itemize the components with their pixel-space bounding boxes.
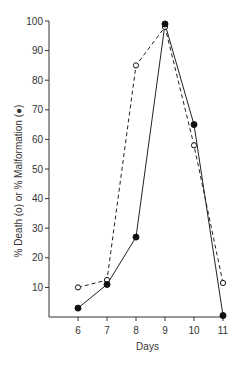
x-tick-label: 6 xyxy=(75,325,81,336)
death-point xyxy=(220,280,225,285)
y-tick-label: 60 xyxy=(32,134,44,145)
y-tick-label: 30 xyxy=(32,223,44,234)
malformation-point xyxy=(191,122,197,128)
y-tick-label: 70 xyxy=(32,104,44,115)
x-tick-label: 10 xyxy=(188,325,200,336)
death-line xyxy=(78,27,223,287)
x-tick-label: 8 xyxy=(133,325,139,336)
chart: 10203040506070809010067891011Days% Death… xyxy=(0,0,241,365)
x-tick-label: 9 xyxy=(162,325,168,336)
x-axis-title: Days xyxy=(136,341,159,352)
malformation-point xyxy=(133,234,139,240)
y-tick-label: 10 xyxy=(32,282,44,293)
malformation-point xyxy=(75,305,81,311)
malformation-point xyxy=(162,21,168,27)
x-tick-label: 11 xyxy=(218,325,229,336)
y-tick-label: 40 xyxy=(32,193,44,204)
y-tick-label: 100 xyxy=(26,16,43,27)
y-axis-title: % Death (o) or % Malformation (●) xyxy=(13,105,24,258)
malformation-point xyxy=(104,281,110,287)
malformation-line xyxy=(78,24,223,316)
y-tick-label: 20 xyxy=(32,252,44,263)
death-point xyxy=(133,63,138,68)
death-point xyxy=(191,143,196,148)
x-tick-label: 7 xyxy=(104,325,110,336)
malformation-point xyxy=(220,313,226,319)
y-tick-label: 50 xyxy=(32,164,44,175)
death-point xyxy=(75,285,80,290)
y-tick-label: 90 xyxy=(32,45,44,56)
y-tick-label: 80 xyxy=(32,75,44,86)
